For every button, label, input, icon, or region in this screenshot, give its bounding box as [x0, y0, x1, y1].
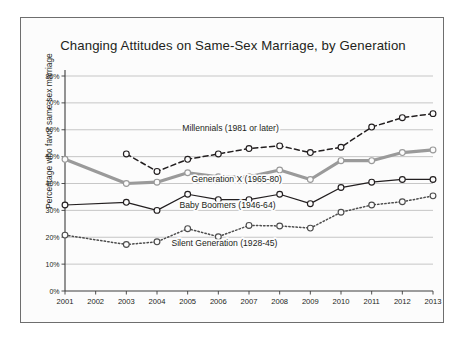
data-point-marker	[430, 111, 436, 117]
data-point-marker	[430, 193, 436, 199]
x-tick-label: 2004	[149, 297, 166, 306]
data-point-marker	[369, 202, 375, 208]
data-point-marker	[154, 239, 160, 245]
x-tick-label: 2009	[302, 297, 319, 306]
series-label-0: Millennials (1981 or later)	[182, 123, 279, 133]
x-tick-label: 2011	[363, 297, 379, 306]
x-tick-label: 2005	[179, 297, 196, 306]
x-tick-label: 2008	[271, 297, 288, 306]
data-point-marker	[62, 232, 68, 238]
y-tick-label: 10%	[45, 261, 59, 268]
data-point-marker	[154, 179, 160, 185]
data-point-marker	[307, 225, 313, 231]
data-point-marker	[123, 199, 129, 205]
data-point-marker	[307, 177, 313, 183]
data-point-marker	[399, 115, 405, 121]
series-label-3: Silent Generation (1928-45)	[171, 238, 277, 248]
data-point-marker	[154, 207, 160, 213]
data-point-marker	[430, 147, 436, 153]
data-point-marker	[307, 150, 313, 156]
data-point-marker	[62, 202, 68, 208]
y-tick-label: 80%	[45, 73, 59, 80]
data-point-marker	[338, 158, 344, 164]
data-point-marker	[185, 156, 191, 162]
data-point-marker	[123, 181, 129, 187]
y-tick-labels: 0%10%20%30%40%50%60%70%80%	[45, 73, 59, 295]
data-point-marker	[399, 199, 405, 205]
data-point-marker	[338, 209, 344, 215]
data-point-marker	[369, 158, 375, 164]
data-point-marker	[185, 170, 191, 176]
data-point-marker	[154, 169, 160, 175]
x-tick-labels: 2001200220032004200520062007200820092010…	[57, 297, 442, 306]
data-point-marker	[399, 150, 405, 156]
data-point-marker	[246, 146, 252, 152]
line-chart-plot: 0%10%20%30%40%50%60%70%80% 2001200220032…	[21, 18, 445, 324]
data-point-marker	[185, 226, 191, 232]
data-point-marker	[277, 223, 283, 229]
x-tick-label: 2003	[118, 297, 135, 306]
y-tick-label: 0%	[49, 288, 59, 295]
data-point-marker	[307, 201, 313, 207]
y-tick-label: 50%	[45, 153, 59, 160]
data-point-marker	[430, 177, 436, 183]
data-point-marker	[185, 191, 191, 197]
data-point-marker	[277, 143, 283, 149]
series-label-1: Generation X (1965-80)	[192, 174, 282, 184]
figure-frame: Changing Attitudes on Same-Sex Marriage,…	[20, 17, 444, 323]
data-point-marker	[338, 185, 344, 191]
x-tick-label: 2010	[333, 297, 350, 306]
x-tick-label: 2007	[241, 297, 258, 306]
data-point-marker	[399, 177, 405, 183]
y-tick-label: 60%	[45, 126, 59, 133]
data-point-marker	[123, 151, 129, 157]
series-0	[123, 111, 435, 175]
x-tick-label: 2013	[425, 297, 442, 306]
gridlines-group	[65, 76, 433, 264]
data-point-marker	[123, 242, 129, 248]
data-point-marker	[369, 124, 375, 130]
x-tick-label: 2006	[210, 297, 227, 306]
series-label-2: Baby Boomers (1946-64)	[180, 200, 276, 210]
data-point-marker	[338, 144, 344, 150]
x-tick-label: 2002	[87, 297, 104, 306]
data-point-marker	[246, 223, 252, 229]
data-point-marker	[369, 179, 375, 185]
data-point-marker	[277, 167, 283, 173]
data-point-marker	[215, 151, 221, 157]
x-tick-label: 2001	[57, 297, 74, 306]
y-tick-label: 40%	[45, 180, 59, 187]
x-tick-label: 2012	[394, 297, 411, 306]
data-point-marker	[277, 191, 283, 197]
y-tick-label: 20%	[45, 234, 59, 241]
y-tick-label: 70%	[45, 99, 59, 106]
y-tick-label: 30%	[45, 207, 59, 214]
data-point-marker	[62, 156, 68, 162]
